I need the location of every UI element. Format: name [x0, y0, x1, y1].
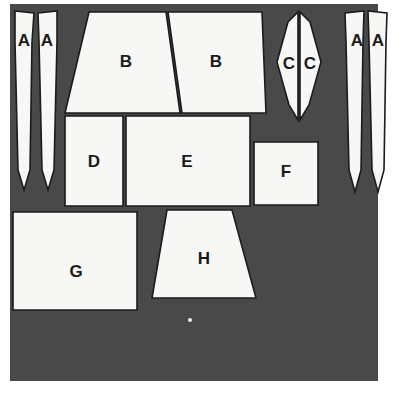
piece-label-e: E [181, 152, 192, 171]
piece-label-b-left: B [120, 52, 132, 71]
piece-label-f: F [281, 162, 291, 181]
pattern-layout-figure: AABBCCAADEFGH [0, 0, 401, 400]
piece-label-c-right: C [304, 54, 316, 73]
pattern-piece-b-right: B [168, 12, 266, 113]
pattern-layout-svg: AABBCCAADEFGH [0, 0, 401, 400]
pattern-piece-d: D [65, 116, 123, 206]
piece-label-d: D [88, 152, 100, 171]
piece-label-a-right-outer: A [351, 31, 363, 50]
pattern-piece-f: F [254, 142, 318, 205]
piece-outline-g [13, 212, 137, 310]
pattern-piece-g: G [13, 212, 137, 310]
scan-artifacts-layer [188, 318, 192, 322]
piece-label-c-left: C [283, 54, 295, 73]
piece-label-b-right: B [210, 52, 222, 71]
piece-label-h: H [198, 249, 210, 268]
piece-label-g: G [69, 262, 82, 281]
scan-speck [188, 318, 192, 322]
piece-label-a-right-inner: A [372, 31, 384, 50]
piece-label-a-left-inner: A [41, 31, 53, 50]
pattern-piece-e: E [126, 116, 250, 206]
piece-label-a-left-outer: A [18, 31, 30, 50]
